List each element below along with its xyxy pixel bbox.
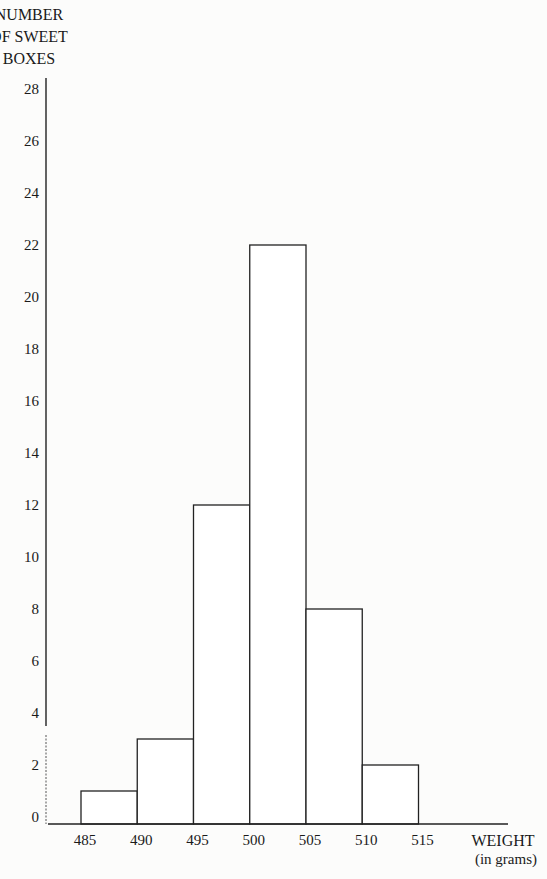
x-tick-label: 500 xyxy=(243,832,266,848)
y-tick-label: 8 xyxy=(32,601,40,617)
x-axis-label: WEIGHT xyxy=(471,832,534,849)
y-tick-label: 28 xyxy=(24,81,39,97)
y-tick-label: 14 xyxy=(24,445,40,461)
histogram-bar-495-500 xyxy=(194,505,250,824)
y-axis: 0246810121416182022242628 xyxy=(24,78,46,825)
x-tick-label: 490 xyxy=(130,832,153,848)
y-tick-label: 24 xyxy=(24,185,40,201)
y-tick-label: 4 xyxy=(32,705,40,721)
histogram-bar-500-505 xyxy=(250,245,306,824)
x-tick-label: 495 xyxy=(186,832,209,848)
x-tick-label: 510 xyxy=(355,832,378,848)
y-tick-label: 10 xyxy=(24,549,39,565)
y-tick-label: 22 xyxy=(24,237,39,253)
y-tick-label: 2 xyxy=(32,757,40,773)
y-tick-label: 16 xyxy=(24,393,40,409)
y-axis-title-line: BOXES xyxy=(3,50,55,67)
histogram-chart: NUMBEROF SWEETBOXES 02468101214161820222… xyxy=(0,0,547,879)
x-tick-label: 505 xyxy=(299,832,322,848)
y-axis-title-line: NUMBER xyxy=(0,6,64,23)
y-tick-label: 6 xyxy=(32,653,40,669)
x-axis-title: WEIGHT (in grams) xyxy=(471,832,537,868)
y-tick-label: 18 xyxy=(24,341,39,357)
y-axis-title: NUMBEROF SWEETBOXES xyxy=(0,6,68,67)
y-tick-label: 0 xyxy=(32,809,40,825)
y-tick-label: 26 xyxy=(24,133,40,149)
x-tick-label: 485 xyxy=(74,832,97,848)
histogram-bar-485-490 xyxy=(81,791,137,824)
y-tick-label: 12 xyxy=(24,497,39,513)
x-axis: 485490495500505510515 xyxy=(48,824,508,848)
x-axis-unit-label: (in grams) xyxy=(475,851,537,868)
histogram-bar-510-515 xyxy=(362,765,418,824)
y-tick-label: 20 xyxy=(24,289,39,305)
bars xyxy=(81,245,419,824)
x-tick-label: 515 xyxy=(411,832,434,848)
histogram-bar-505-510 xyxy=(306,609,362,824)
y-axis-title-line: OF SWEET xyxy=(0,28,68,45)
histogram-bar-490-495 xyxy=(137,739,193,824)
